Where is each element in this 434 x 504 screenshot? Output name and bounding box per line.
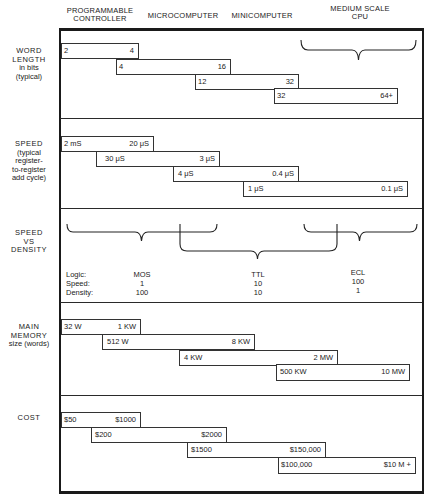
range-high: 0.4 μS: [272, 167, 294, 181]
medium-scale-cpu-brace: [300, 40, 417, 64]
row-label-speed-vs-density: SPEED VS DENSITY: [0, 229, 58, 255]
range-low: $200: [95, 428, 112, 442]
section-divider: [60, 208, 422, 209]
tech-density: 1: [338, 286, 378, 295]
range-bar-cost-medium-scale-cpu: $100,000 $10 M +: [278, 457, 416, 474]
column-header-microcomputer: MICROCOMPUTER: [138, 12, 228, 20]
range-bar-cost-microcomputer: $200 $2000: [91, 427, 227, 443]
range-high: 32: [286, 75, 294, 89]
range-low: 2 mS: [64, 137, 82, 151]
range-high: $10 M +: [384, 458, 411, 472]
range-high: 4: [130, 44, 134, 58]
range-high: 64+: [380, 89, 393, 103]
range-high: $150,000: [290, 443, 321, 457]
range-low: 4: [119, 60, 123, 74]
tech-mos: MOS 1 100: [122, 270, 162, 297]
range-low: 512 W: [107, 335, 129, 349]
column-header-line: CONTROLLER: [58, 15, 142, 23]
tech-density: 10: [238, 288, 278, 297]
section-divider: [60, 302, 422, 303]
speed-label: Speed:: [66, 279, 93, 288]
range-bar-memory-microcomputer: 512 W 8 KW: [102, 334, 255, 350]
density-label: Density:: [66, 288, 93, 297]
range-low: $50: [64, 413, 77, 427]
row-label-line: size (words): [0, 340, 58, 349]
row-label-line: COST: [0, 414, 58, 423]
range-bar-cost-minicomputer: $1500 $150,000: [187, 442, 326, 458]
range-bar-word-length-medium-scale-cpu: 32 64+: [274, 88, 398, 104]
range-bar-cost-programmable-controller: $50 $1000: [61, 412, 141, 428]
range-bar-speed-programmable-controller: 2 mS 20 μS: [61, 136, 154, 152]
range-high: 10 MW: [381, 365, 405, 379]
range-low: 2: [64, 44, 68, 58]
tech-ttl: TTL 10 10: [238, 270, 278, 297]
range-bar-speed-medium-scale-cpu: 1 μS 0.1 μS: [243, 181, 408, 197]
tech-row-labels: Logic: Speed: Density:: [66, 270, 93, 297]
column-header-line: MICROCOMPUTER: [138, 12, 228, 20]
range-low: 4 KW: [184, 351, 202, 365]
range-high: 16: [218, 60, 226, 74]
tech-ecl: ECL 100 1: [338, 268, 378, 295]
range-high: 8 KW: [232, 335, 250, 349]
section-divider: [60, 395, 422, 396]
tech-speed: 100: [338, 277, 378, 286]
row-label-line: add cycle): [0, 174, 58, 183]
tech-logic: ECL: [338, 268, 378, 277]
range-bar-speed-minicomputer: 4 μS 0.4 μS: [173, 166, 299, 182]
column-header-line: CPU: [315, 13, 405, 21]
range-high: 20 μS: [129, 137, 149, 151]
range-high: 3 μS: [199, 152, 215, 166]
range-high: 2 MW: [313, 351, 333, 365]
range-bar-word-length-microcomputer: 4 16: [116, 59, 231, 75]
row-label-speed: SPEED (typical register- to-register add…: [0, 140, 58, 183]
range-low: 32 W: [64, 320, 82, 334]
range-low: 500 KW: [280, 365, 307, 379]
ecl-brace: [303, 224, 418, 244]
range-high: 0.1 μS: [381, 182, 403, 196]
row-label-word-length: WORD LENGTH in bits (typical): [0, 47, 58, 81]
section-divider: [60, 118, 422, 119]
range-bar-memory-medium-scale-cpu: 500 KW 10 MW: [276, 364, 410, 381]
range-bar-memory-programmable-controller: 32 W 1 KW: [61, 319, 141, 335]
range-low: $100,000: [281, 458, 312, 472]
range-low: 32: [277, 89, 285, 103]
range-high: $2000: [201, 428, 222, 442]
tech-density: 100: [122, 288, 162, 297]
row-label-line: DENSITY: [0, 246, 58, 255]
range-low: 4 μS: [178, 167, 194, 181]
range-low: 30 μS: [105, 152, 125, 166]
range-high: $1000: [115, 413, 136, 427]
range-bar-speed-microcomputer: 30 μS 3 μS: [96, 151, 220, 167]
row-label-cost: COST: [0, 414, 58, 423]
row-label-main-memory: MAIN MEMORY size (words): [0, 323, 58, 349]
column-header-minicomputer: MINICOMPUTER: [222, 12, 302, 20]
tech-logic: MOS: [122, 270, 162, 279]
range-low: 1 μS: [248, 182, 264, 196]
range-bar-word-length-programmable-controller: 2 4: [61, 43, 139, 59]
row-label-line: (typical): [0, 73, 58, 82]
tech-speed: 10: [238, 279, 278, 288]
range-low: 12: [198, 75, 206, 89]
range-high: 1 KW: [118, 320, 136, 334]
range-low: $1500: [191, 443, 212, 457]
tech-speed: 1: [122, 279, 162, 288]
tech-logic: TTL: [238, 270, 278, 279]
column-header-line: MINICOMPUTER: [222, 12, 302, 20]
column-header-programmable-controller: PROGRAMMABLE CONTROLLER: [58, 7, 142, 23]
column-header-medium-scale-cpu: MEDIUM SCALE CPU: [315, 5, 405, 21]
logic-label: Logic:: [66, 270, 93, 279]
